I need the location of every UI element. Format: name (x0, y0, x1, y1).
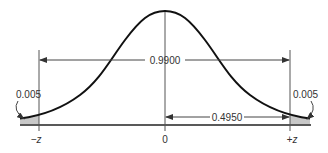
left-tail-pointer (16, 101, 24, 119)
tick-label-plus-z: +z (287, 134, 298, 145)
tick-label-minus-z: −z (31, 134, 42, 145)
right-tail-pointer (307, 101, 313, 119)
right-tail-label: 0.005 (293, 89, 318, 100)
normal-distribution-diagram: 0.9900 0.4950 0.005 0.005 −z 0 +z (0, 0, 328, 153)
half-area-label: 0.4950 (212, 112, 243, 123)
left-tail-label: 0.005 (16, 89, 41, 100)
tick-label-zero: 0 (162, 134, 168, 145)
central-area-label: 0.9900 (150, 55, 181, 66)
